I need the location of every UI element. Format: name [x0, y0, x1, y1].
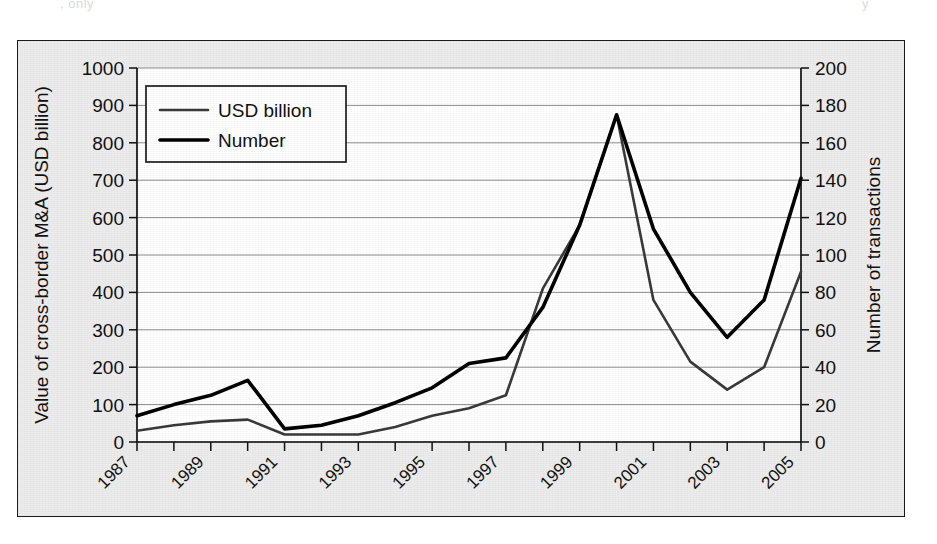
x-axis-tick-label-2005: 2005	[758, 452, 798, 492]
y-axis-right-tick-label-60: 60	[815, 320, 836, 341]
y-axis-right-tick-label-20: 20	[815, 395, 836, 416]
y-axis-left-tick-label-900: 900	[92, 95, 124, 116]
scan-artifact-top-right-text: y	[862, 0, 869, 11]
y-axis-left-tick-label-100: 100	[92, 395, 124, 416]
legend-label-number: Number	[218, 130, 286, 151]
x-axis-tick-label-1993: 1993	[315, 452, 355, 492]
x-axis-tick-label-1997: 1997	[463, 452, 503, 492]
legend-label-usd-billion: USD billion	[218, 100, 312, 121]
y-axis-left-tick-label-0: 0	[113, 432, 124, 453]
y-axis-left-tick-label-700: 700	[92, 170, 124, 191]
y-axis-right-tick-label-100: 100	[815, 245, 847, 266]
figure-frame: 0100200300400500600700800900100002040608…	[17, 40, 905, 517]
x-axis-tick-label-1995: 1995	[389, 452, 429, 492]
y-axis-left-tick-label-800: 800	[92, 133, 124, 154]
scan-artifact-top: , only y	[0, 0, 937, 20]
y-axis-right-tick-label-120: 120	[815, 208, 847, 229]
scan-artifact-top-left-text: , only	[60, 0, 94, 11]
y-axis-left-title: Value of cross-border M&A (USD billion)	[31, 86, 52, 424]
x-axis-tick-label-2003: 2003	[684, 452, 724, 492]
y-axis-right-title: Number of transactions	[863, 157, 884, 353]
x-axis-tick-label-1991: 1991	[241, 452, 281, 492]
y-axis-right-tick-label-140: 140	[815, 170, 847, 191]
y-axis-left-tick-label-1000: 1000	[82, 58, 124, 79]
x-axis-tick-label-1989: 1989	[167, 452, 207, 492]
y-axis-right-tick-label-160: 160	[815, 133, 847, 154]
line-chart: 0100200300400500600700800900100002040608…	[18, 41, 906, 518]
y-axis-right-tick-label-40: 40	[815, 357, 836, 378]
y-axis-right-tick-label-200: 200	[815, 58, 847, 79]
y-axis-left-tick-label-200: 200	[92, 357, 124, 378]
y-axis-right-tick-label-180: 180	[815, 95, 847, 116]
y-axis-right-tick-label-80: 80	[815, 282, 836, 303]
y-axis-left-tick-label-500: 500	[92, 245, 124, 266]
x-axis-tick-label-1999: 1999	[536, 452, 576, 492]
x-axis-tick-label-1987: 1987	[94, 452, 134, 492]
y-axis-left-tick-label-300: 300	[92, 320, 124, 341]
scan-artifact-bottom	[0, 524, 937, 544]
y-axis-right-tick-label-0: 0	[815, 432, 826, 453]
x-axis-tick-label-2001: 2001	[610, 452, 650, 492]
y-axis-left-tick-label-600: 600	[92, 208, 124, 229]
y-axis-left-tick-label-400: 400	[92, 282, 124, 303]
